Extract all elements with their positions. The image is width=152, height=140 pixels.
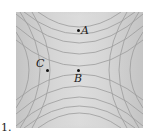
- point-b-label: B: [74, 73, 82, 84]
- point-c-label: C: [36, 58, 44, 69]
- point-a-label: A: [81, 25, 89, 36]
- point-a-dot: [77, 29, 80, 32]
- figure-number: 1.: [1, 121, 12, 134]
- point-c-dot: [46, 69, 49, 72]
